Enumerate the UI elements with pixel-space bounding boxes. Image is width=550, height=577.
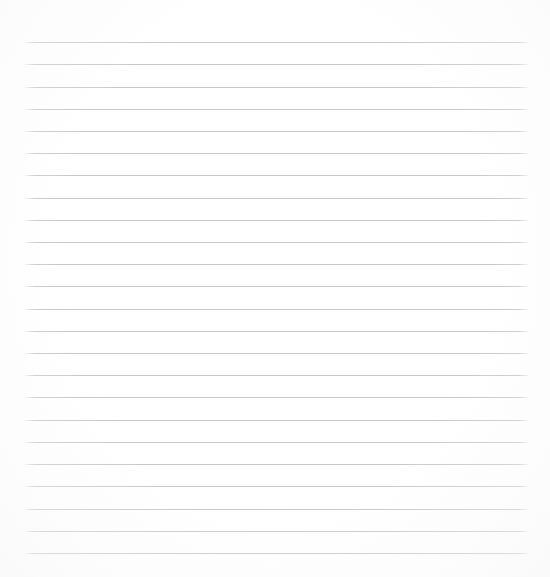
rule-line (25, 286, 528, 287)
rule-line (25, 553, 528, 554)
ruled-page (0, 0, 550, 577)
rule-line (25, 509, 528, 510)
rule-line (25, 109, 528, 110)
rule-line (25, 220, 528, 221)
rule-line (25, 531, 528, 532)
rule-line (25, 331, 528, 332)
rule-line (25, 175, 528, 176)
rule-line (25, 87, 528, 88)
rule-line (25, 131, 528, 132)
rule-line (25, 153, 528, 154)
ruled-line-area[interactable] (0, 0, 550, 577)
rule-line (25, 198, 528, 199)
rule-line (25, 309, 528, 310)
rule-line (25, 353, 528, 354)
rule-line (25, 486, 528, 487)
rule-line (25, 420, 528, 421)
rule-line (25, 64, 528, 65)
rule-line (25, 442, 528, 443)
rule-line (25, 375, 528, 376)
rule-line (25, 264, 528, 265)
rule-line (25, 242, 528, 243)
rule-line (25, 397, 528, 398)
rule-line (25, 42, 528, 43)
rule-line (25, 464, 528, 465)
